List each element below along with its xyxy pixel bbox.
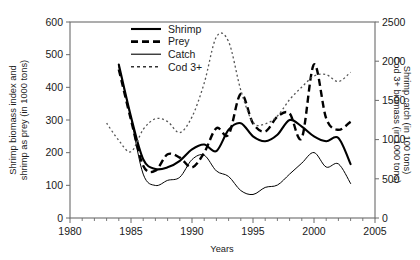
y-right-axis-title-line2: Cod 3+ biomass (in 1000 tons) [392,57,402,184]
legend-item-shrimp[interactable]: Shrimp [131,23,201,35]
x-axis-title: Years [210,244,234,254]
line-chart: 0100200300400500600050010001500200025001… [0,0,420,260]
series-group [107,33,351,195]
y-left-tick-label: 500 [45,48,63,60]
legend-label: Shrimp [168,23,201,35]
series-line-cod3plus [107,33,351,152]
y-left-axis-title-line2: shrimp as prey (in 1000 tons) [19,60,29,180]
y-right-axis-title-line1: Shrimp catch (in 100 tons) [402,66,412,175]
y-left-tick-label: 400 [45,81,63,93]
series-line-prey [119,64,351,172]
y-left-tick-label: 0 [57,212,63,224]
y-right-tick-label: 2500 [382,16,406,28]
x-tick-label: 1995 [241,225,265,237]
y-left-tick-label: 600 [45,16,63,28]
legend-label: Prey [168,35,190,47]
legend-item-catch[interactable]: Catch [131,48,196,60]
series-line-catch [119,67,351,195]
x-tick-label: 1985 [119,225,143,237]
x-tick-label: 2000 [302,225,326,237]
y-left-tick-label: 100 [45,179,63,191]
x-tick-label: 2005 [363,225,387,237]
legend-item-prey[interactable]: Prey [131,35,190,47]
legend-label: Catch [168,48,196,60]
x-tick-label: 1990 [180,225,204,237]
y-left-tick-label: 300 [45,114,63,126]
y-left-tick-label: 200 [45,146,63,158]
axes-group: 0100200300400500600050010001500200025001… [45,16,405,237]
chart-container: 0100200300400500600050010001500200025001… [0,0,420,260]
plot-frame [70,22,375,218]
y-right-tick-label: 0 [382,212,388,224]
x-tick-label: 1980 [58,225,82,237]
chart-legend: ShrimpPreyCatchCod 3+ [131,23,202,73]
legend-item-cod3plus[interactable]: Cod 3+ [131,61,202,73]
legend-label: Cod 3+ [168,61,202,73]
y-left-axis-title-line1: Shrimp biomass index and [8,65,18,175]
